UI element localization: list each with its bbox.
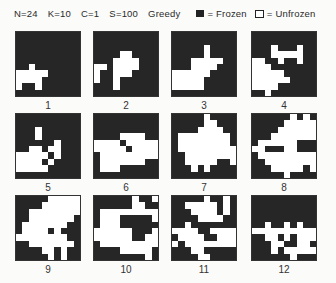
landscape-panel-12	[251, 195, 317, 261]
frozen-grid	[16, 114, 80, 178]
param-strategy: Greedy	[148, 8, 180, 19]
frozen-cell	[310, 172, 316, 178]
frozen-grid	[172, 32, 236, 96]
frozen-cell	[74, 90, 80, 96]
panel-label: 4	[251, 100, 317, 111]
landscape-panel-5	[15, 113, 81, 179]
frozen-grid	[172, 196, 236, 260]
panel-label: 10	[93, 264, 159, 275]
frozen-cell	[152, 172, 158, 178]
filled-square-icon	[196, 10, 204, 17]
empty-square-icon	[255, 10, 264, 18]
landscape-panel-3	[171, 31, 237, 97]
panel-label: 5	[15, 182, 81, 193]
frozen-grid	[252, 32, 316, 96]
panel-label: 9	[15, 264, 81, 275]
frozen-grid	[172, 114, 236, 178]
frozen-cell	[230, 90, 236, 96]
landscape-panel-11	[171, 195, 237, 261]
legend-frozen: = Frozen	[196, 8, 246, 19]
panel-label: 6	[93, 182, 159, 193]
frozen-grid	[16, 32, 80, 96]
panel-label: 12	[251, 264, 317, 275]
frozen-cell	[310, 90, 316, 96]
frozen-cell	[230, 254, 236, 260]
panel-label: 11	[171, 264, 237, 275]
panel-label: 7	[171, 182, 237, 193]
frozen-grid	[94, 32, 158, 96]
frozen-cell	[230, 172, 236, 178]
param-n: N=24	[14, 8, 38, 19]
frozen-grid	[94, 196, 158, 260]
landscape-panel-2	[93, 31, 159, 97]
frozen-grid	[16, 196, 80, 260]
frozen-grid	[252, 196, 316, 260]
landscape-panel-8	[251, 113, 317, 179]
figure-header: N=24 K=10 C=1 S=100 Greedy = Frozen = Un…	[14, 8, 324, 19]
panel-label: 8	[251, 182, 317, 193]
landscape-panel-4	[251, 31, 317, 97]
frozen-grid	[252, 114, 316, 178]
param-k: K=10	[48, 8, 71, 19]
landscape-panel-9	[15, 195, 81, 261]
panel-label: 2	[93, 100, 159, 111]
landscape-panel-6	[93, 113, 159, 179]
frozen-cell	[74, 254, 80, 260]
frozen-cell	[152, 90, 158, 96]
param-s: S=100	[109, 8, 138, 19]
panel-label: 1	[15, 100, 81, 111]
frozen-cell	[310, 254, 316, 260]
landscape-panel-10	[93, 195, 159, 261]
legend-unfrozen: = Unfrozen	[255, 8, 316, 19]
param-c: C=1	[81, 8, 99, 19]
landscape-panel-7	[171, 113, 237, 179]
panel-label: 3	[171, 100, 237, 111]
frozen-grid	[94, 114, 158, 178]
landscape-panel-1	[15, 31, 81, 97]
frozen-cell	[74, 172, 80, 178]
frozen-cell	[152, 254, 158, 260]
